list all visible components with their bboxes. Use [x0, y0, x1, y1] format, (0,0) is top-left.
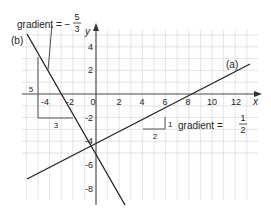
y-axis-label: y — [84, 26, 91, 37]
line-b-gradient-numerator: 5 — [74, 12, 79, 22]
line-a-gradient-denominator: 2 — [240, 125, 245, 135]
x-tick-label: 10 — [207, 97, 217, 107]
line-a-gradient-text: gradient = — [178, 120, 223, 131]
y-tick-label: -6 — [85, 160, 93, 170]
x-tick-label: -2 — [66, 97, 74, 107]
line-b-rise-label: 5 — [29, 85, 34, 94]
y-tick-label: 4 — [88, 42, 93, 52]
line-a-gradient-numerator: 1 — [240, 113, 245, 123]
coordinate-diagram: x y -4 -2 0 2 4 6 8 10 12 4 2 -2 -4 -6 -… — [0, 0, 271, 212]
y-tick-label: -8 — [85, 184, 93, 194]
y-tick-label: -2 — [85, 113, 93, 123]
y-tick-label: 2 — [88, 65, 93, 75]
line-b-run-label: 3 — [54, 121, 59, 130]
x-tick-label: 6 — [162, 97, 167, 107]
line-a-rise-label: 1 — [168, 120, 173, 129]
line-a-label: (a) — [226, 59, 238, 70]
line-b-label: (b) — [11, 35, 23, 46]
line-b — [27, 34, 125, 205]
grid — [22, 30, 258, 200]
x-tick-label: 0 — [90, 97, 95, 107]
x-axis-label: x — [252, 96, 259, 107]
line-b-gradient-triangle — [38, 57, 73, 118]
x-tick-label: 8 — [185, 97, 190, 107]
x-tick-label: -4 — [41, 97, 49, 107]
line-a-run-label: 2 — [153, 132, 158, 141]
line-b-leader — [48, 25, 52, 70]
y-axis-arrow-icon — [93, 23, 99, 31]
x-tick-label: 12 — [231, 97, 241, 107]
line-b-gradient-denominator: 3 — [74, 24, 79, 34]
x-tick-label: 2 — [116, 97, 121, 107]
line-b-gradient-text: gradient = − — [17, 19, 71, 30]
x-tick-label: 4 — [139, 97, 144, 107]
